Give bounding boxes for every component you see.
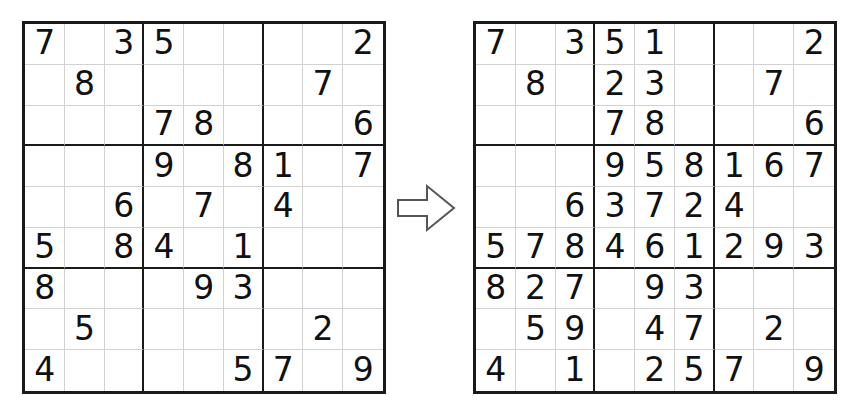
sudoku-cell[interactable] [105,350,145,391]
sudoku-cell[interactable] [754,24,794,65]
sudoku-cell[interactable]: 1 [635,24,675,65]
sudoku-cell[interactable] [144,350,184,391]
sudoku-cell[interactable] [224,65,264,106]
sudoku-cell[interactable] [105,106,145,147]
sudoku-cell[interactable]: 1 [264,146,304,187]
sudoku-cell[interactable] [25,106,65,147]
sudoku-cell[interactable] [715,24,755,65]
sudoku-cell[interactable] [556,106,596,147]
sudoku-cell[interactable]: 9 [343,350,383,391]
sudoku-cell[interactable]: 6 [556,187,596,228]
sudoku-cell[interactable]: 3 [105,24,145,65]
sudoku-cell[interactable]: 6 [754,146,794,187]
sudoku-cell[interactable]: 9 [595,146,635,187]
sudoku-cell[interactable]: 2 [635,350,675,391]
sudoku-cell[interactable] [715,65,755,106]
sudoku-cell[interactable]: 4 [635,309,675,350]
sudoku-cell[interactable]: 7 [675,309,715,350]
sudoku-cell[interactable] [264,106,304,147]
sudoku-cell[interactable] [224,24,264,65]
sudoku-cell[interactable] [65,24,105,65]
sudoku-cell[interactable] [303,24,343,65]
sudoku-cell[interactable] [65,350,105,391]
sudoku-cell[interactable]: 7 [25,24,65,65]
sudoku-cell[interactable]: 4 [476,350,516,391]
sudoku-cell[interactable]: 2 [595,65,635,106]
sudoku-cell[interactable]: 8 [516,65,556,106]
sudoku-cell[interactable]: 6 [635,228,675,269]
sudoku-cell[interactable] [476,65,516,106]
sudoku-cell[interactable]: 3 [595,187,635,228]
sudoku-cell[interactable] [715,309,755,350]
sudoku-cell[interactable]: 4 [264,187,304,228]
sudoku-cell[interactable] [25,187,65,228]
sudoku-cell[interactable]: 8 [635,106,675,147]
sudoku-cell[interactable] [516,187,556,228]
sudoku-cell[interactable] [794,65,834,106]
sudoku-cell[interactable] [184,65,224,106]
sudoku-cell[interactable]: 5 [476,228,516,269]
sudoku-cell[interactable] [754,106,794,147]
sudoku-cell[interactable]: 8 [476,269,516,310]
sudoku-cell[interactable] [25,309,65,350]
sudoku-cell[interactable]: 8 [556,228,596,269]
sudoku-cell[interactable] [595,269,635,310]
sudoku-cell[interactable] [754,269,794,310]
sudoku-cell[interactable] [65,228,105,269]
sudoku-cell[interactable]: 5 [65,309,105,350]
sudoku-cell[interactable]: 7 [476,24,516,65]
sudoku-cell[interactable] [264,24,304,65]
sudoku-cell[interactable] [516,146,556,187]
sudoku-cell[interactable]: 4 [25,350,65,391]
sudoku-cell[interactable]: 6 [343,106,383,147]
sudoku-cell[interactable] [794,309,834,350]
sudoku-cell[interactable] [303,106,343,147]
sudoku-cell[interactable]: 7 [635,187,675,228]
sudoku-cell[interactable]: 7 [303,65,343,106]
sudoku-cell[interactable]: 2 [794,24,834,65]
sudoku-cell[interactable] [715,269,755,310]
sudoku-cell[interactable]: 1 [675,228,715,269]
sudoku-cell[interactable]: 9 [184,269,224,310]
sudoku-cell[interactable] [303,228,343,269]
sudoku-cell[interactable]: 1 [715,146,755,187]
sudoku-cell[interactable] [184,228,224,269]
sudoku-cell[interactable]: 5 [675,350,715,391]
sudoku-cell[interactable] [105,65,145,106]
sudoku-cell[interactable]: 5 [224,350,264,391]
sudoku-cell[interactable] [25,65,65,106]
sudoku-cell[interactable]: 4 [715,187,755,228]
sudoku-cell[interactable]: 2 [516,269,556,310]
sudoku-cell[interactable]: 7 [754,65,794,106]
sudoku-cell[interactable]: 3 [635,65,675,106]
sudoku-cell[interactable]: 3 [224,269,264,310]
sudoku-cell[interactable] [794,187,834,228]
sudoku-cell[interactable]: 9 [144,146,184,187]
sudoku-cell[interactable]: 7 [184,187,224,228]
sudoku-cell[interactable]: 8 [675,146,715,187]
sudoku-cell[interactable] [343,65,383,106]
sudoku-grid-solution[interactable]: 7351282377869581676372457846129382793594… [473,21,837,394]
sudoku-cell[interactable]: 2 [303,309,343,350]
sudoku-cell[interactable] [184,24,224,65]
sudoku-cell[interactable]: 3 [794,228,834,269]
sudoku-cell[interactable] [556,65,596,106]
sudoku-cell[interactable] [715,106,755,147]
sudoku-cell[interactable]: 7 [556,269,596,310]
sudoku-cell[interactable] [343,187,383,228]
sudoku-cell[interactable]: 1 [224,228,264,269]
sudoku-cell[interactable] [144,187,184,228]
sudoku-cell[interactable] [264,65,304,106]
sudoku-cell[interactable]: 9 [635,269,675,310]
sudoku-cell[interactable]: 9 [754,228,794,269]
sudoku-cell[interactable] [343,309,383,350]
sudoku-cell[interactable] [144,309,184,350]
sudoku-cell[interactable] [105,309,145,350]
sudoku-cell[interactable]: 5 [516,309,556,350]
sudoku-cell[interactable] [675,24,715,65]
sudoku-cell[interactable]: 4 [144,228,184,269]
sudoku-cell[interactable] [184,350,224,391]
sudoku-cell[interactable] [303,187,343,228]
sudoku-cell[interactable]: 5 [595,24,635,65]
sudoku-grid-puzzle[interactable]: 73528778698176745841893524579 [22,21,386,394]
